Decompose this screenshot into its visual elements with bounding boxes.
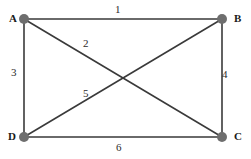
edge-label-2: 2: [83, 38, 89, 49]
graph-vertex-a: [19, 14, 29, 24]
vertex-label-d: D: [8, 131, 16, 142]
graph-vertex-c: [217, 132, 227, 142]
edge-label-4: 4: [222, 69, 228, 80]
vertex-label-b: B: [234, 13, 241, 24]
edge-label-6: 6: [116, 142, 122, 153]
graph-canvas: [0, 0, 251, 159]
edge-label-5: 5: [83, 88, 89, 99]
graph-vertex-b: [217, 14, 227, 24]
vertex-label-c: C: [234, 131, 242, 142]
vertex-label-a: A: [9, 13, 17, 24]
graph-vertex-d: [19, 132, 29, 142]
graph-diagram: ABCD 123456: [0, 0, 251, 159]
edge-label-1: 1: [115, 4, 121, 15]
edges-group: [24, 19, 222, 137]
edge-label-3: 3: [11, 67, 17, 78]
